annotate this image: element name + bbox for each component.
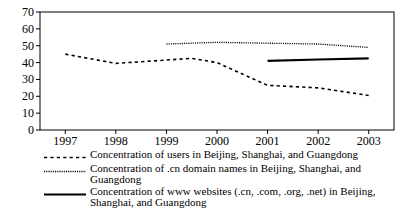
x-tick-2000: 2000 <box>205 135 229 147</box>
dotted-line-key <box>44 166 86 177</box>
x-tick-1998: 1998 <box>104 135 128 147</box>
data-series <box>65 42 368 95</box>
axes <box>36 12 394 134</box>
legend-label-cn-domains: Concentration of .cn domain names in Bei… <box>90 163 404 186</box>
legend-item-cn-domains: Concentration of .cn domain names in Bei… <box>44 163 404 186</box>
x-tick-1999: 1999 <box>154 135 178 147</box>
chart-canvas <box>0 0 408 145</box>
x-tick-1997: 1997 <box>53 135 77 147</box>
x-tick-2003: 2003 <box>357 135 381 147</box>
x-axis-labels: 1997199819992000200120022003 <box>0 129 408 147</box>
legend-item-users: Concentration of users in Beijing, Shang… <box>44 149 404 163</box>
x-tick-2001: 2001 <box>256 135 280 147</box>
dashed-line-key <box>44 152 86 163</box>
plot-area: 010203040506070 199719981999200020012002… <box>0 0 408 145</box>
legend-item-www-websites: Concentration of www websites (.cn, .com… <box>44 186 404 208</box>
series-line-1 <box>166 42 368 47</box>
chart-legend: Concentration of users in Beijing, Shang… <box>44 149 404 208</box>
legend-label-www-websites: Concentration of www websites (.cn, .com… <box>90 186 404 208</box>
legend-label-www-line2: Shanghai, and Guangdong <box>90 197 404 208</box>
solid-line-key <box>44 189 86 200</box>
x-tick-2002: 2002 <box>306 135 330 147</box>
series-line-2 <box>268 58 369 61</box>
chart-figure: 010203040506070 199719981999200020012002… <box>0 0 408 208</box>
legend-label-users: Concentration of users in Beijing, Shang… <box>90 149 404 160</box>
